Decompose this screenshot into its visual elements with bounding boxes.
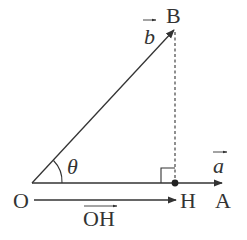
vector-a-label: a <box>213 153 224 178</box>
point-b-label: B <box>166 3 181 28</box>
point-o-label: O <box>13 188 29 213</box>
vector-projection-diagram: B b θ a O H A OH <box>0 0 247 240</box>
point-h-label: H <box>180 188 196 213</box>
vector-b-label: b <box>144 24 155 49</box>
angle-theta-label: θ <box>67 154 78 179</box>
angle-theta-arc <box>54 161 63 184</box>
point-a-label: A <box>215 188 231 213</box>
vector-b-line <box>32 30 174 183</box>
vector-oh-label: OH <box>83 206 115 231</box>
point-h-dot <box>172 180 179 187</box>
